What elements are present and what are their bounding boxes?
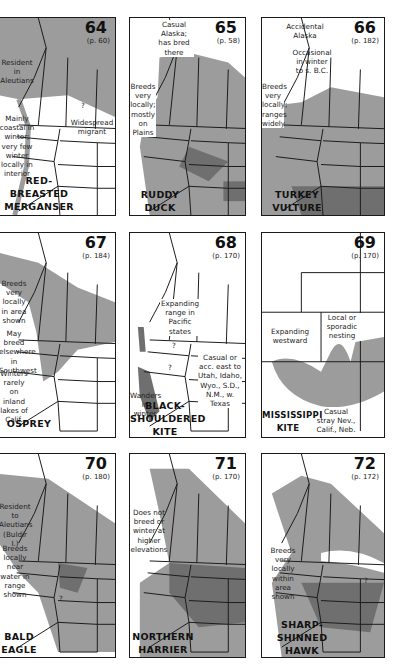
species-name: OSPREY	[0, 417, 59, 430]
species-name: RUDDYDUCK	[130, 188, 190, 214]
range-map-65: 65 (p. 58) Casual Alaska; has bred there…	[129, 17, 246, 216]
note-breeds: Breeds very locally within area shown	[266, 546, 300, 601]
range-map-64: 64 (p. 60) Resident in Aleutians Mainly …	[0, 17, 116, 216]
map-number: 70	[85, 456, 107, 472]
page-ref: (p. 58)	[217, 37, 240, 45]
range-map-68: 68 (p. 170) Expanding range in Pacific s…	[129, 232, 246, 438]
page-ref: (p. 184)	[82, 252, 110, 260]
species-name: NORTHERNHARRIER	[130, 630, 196, 656]
species-name: SHARP-SHINNEDHAWK	[272, 618, 332, 657]
note-resident: Resident to Aleutians (Buldir I.)	[0, 502, 31, 548]
page-ref: (p. 170)	[212, 252, 240, 260]
question-mark: ?	[79, 101, 87, 110]
note-casual: Casual or acc. east to Utah, Idaho, Wyo.…	[198, 353, 242, 408]
note-expanding: Expanding westward	[270, 327, 310, 345]
map-number: 69	[354, 235, 376, 251]
page-ref: (p. 170)	[351, 252, 379, 260]
map-number: 72	[354, 456, 376, 472]
note-coastal: Mainly coastal in winter; very few winte…	[0, 114, 35, 178]
note-breeds: Breeds very locally; ranges widely	[262, 82, 284, 128]
range-map-70: 70 (p. 180) Resident to Aleutians (Buldi…	[0, 453, 116, 658]
species-name: BLACK-SHOULDEREDKITE	[130, 399, 200, 438]
map-number: 71	[215, 456, 237, 472]
map-number: 66	[354, 20, 376, 36]
note-occasional: Occasional in winter to s. B.C.	[292, 48, 332, 76]
range-map-71: 71 (p. 170) Does not breed or winter at …	[129, 453, 246, 658]
range-map-72: 72 (p. 172) Breeds very locally within a…	[261, 453, 385, 658]
note-breeds: Breeds locally near water in range shown	[0, 544, 31, 599]
range-map-67: 67 (p. 184) Breeds very locally in area …	[0, 232, 116, 438]
note-winters: Winters rarely on inland lakes of Calif.	[0, 369, 29, 424]
question-mark: ?	[170, 341, 178, 350]
question-mark: ?	[166, 363, 174, 372]
note-alaska: Casual Alaska; has bred there	[154, 20, 194, 57]
note-local: Local or sporadic nesting	[322, 313, 362, 341]
page-ref: (p. 172)	[351, 473, 379, 481]
question-mark: ?	[57, 594, 65, 603]
note-aleutians: Resident in Aleutians	[0, 58, 35, 86]
note-migrant: Widespread migrant	[69, 118, 115, 136]
page-ref: (p. 60)	[87, 37, 110, 45]
note-expanding: Expanding range in Pacific states	[160, 299, 200, 336]
range-map-69: 69 (p. 170) Expanding westward Local or …	[261, 232, 385, 438]
page-ref: (p. 182)	[351, 37, 379, 45]
species-name: TURKEYVULTURE	[272, 188, 322, 214]
page-ref: (p. 170)	[212, 473, 240, 481]
species-name: BALDEAGLE	[0, 630, 39, 656]
map-number: 64	[85, 20, 107, 36]
note-accidental: Accidental Alaska	[282, 22, 328, 40]
note-elevation: Does not breed or winter at higher eleva…	[130, 508, 168, 554]
species-name: RED-BREASTEDMERGANSER	[0, 174, 79, 213]
page-ref: (p. 180)	[82, 473, 110, 481]
question-mark: ?	[362, 576, 370, 585]
map-number: 68	[215, 235, 237, 251]
range-map-shape	[130, 454, 245, 657]
note-breeds: Breeds very locally; mostly on Plains	[130, 82, 156, 137]
note-breeds: Breeds very locally in area shown	[0, 279, 29, 325]
range-map-66: 66 (p. 182) Accidental Alaska Occasional…	[261, 17, 385, 216]
map-number: 65	[215, 20, 237, 36]
species-name: MISSISSIPPIKITE	[262, 409, 314, 435]
map-number: 67	[85, 235, 107, 251]
